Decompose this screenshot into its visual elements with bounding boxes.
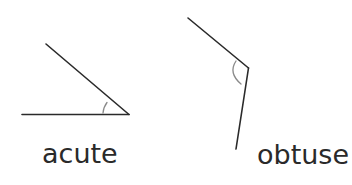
acute-slanted-ray	[46, 44, 129, 115]
obtuse-label: obtuse	[257, 141, 349, 168]
obtuse-angle-arc	[233, 61, 241, 84]
acute-angle-arc	[103, 103, 107, 114]
obtuse-upper-ray	[188, 18, 249, 68]
acute-label: acute	[42, 140, 118, 167]
acute-angle	[22, 44, 129, 115]
obtuse-angle	[188, 18, 249, 149]
